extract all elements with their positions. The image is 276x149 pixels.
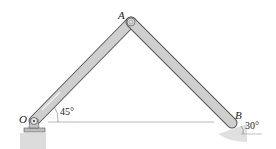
angle-arc-45 bbox=[54, 106, 58, 122]
pin-A bbox=[127, 18, 135, 26]
link-OA bbox=[34, 22, 131, 121]
angle-label-45: 45° bbox=[60, 106, 74, 117]
label-B: B bbox=[235, 109, 242, 121]
diagram-svg bbox=[0, 0, 276, 149]
base-plate bbox=[24, 128, 45, 132]
mechanism-diagram: O A B 45° 30° bbox=[0, 0, 276, 149]
angle-label-30: 30° bbox=[245, 120, 259, 131]
link-AB bbox=[131, 22, 232, 123]
label-O: O bbox=[19, 113, 27, 125]
ground-O bbox=[20, 133, 46, 149]
label-A: A bbox=[118, 9, 125, 21]
